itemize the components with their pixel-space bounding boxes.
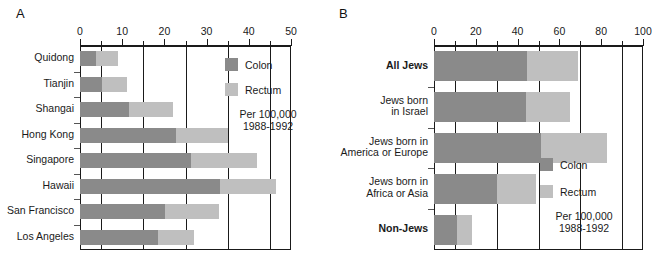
legend-panel-b: Colon Rectum Per 100,000 1988-1992 bbox=[540, 158, 635, 228]
x-tick-100 bbox=[643, 39, 644, 46]
legend-note-a: Per 100,000 1988-1992 bbox=[221, 108, 315, 132]
bar-row bbox=[80, 77, 127, 92]
bar-row bbox=[80, 102, 173, 117]
x-tick-0 bbox=[434, 39, 435, 46]
y-separator-tick bbox=[74, 97, 80, 98]
y-separator-tick bbox=[74, 148, 80, 149]
bar-segment-colon bbox=[434, 92, 526, 122]
legend-panel-a: Colon Rectum Per 100,000 1988-1992 bbox=[225, 58, 315, 124]
bar-segment-colon bbox=[80, 102, 129, 117]
category-label: Tianjin bbox=[2, 78, 74, 90]
bar-segment-colon bbox=[434, 51, 527, 81]
panel-b: B 020406080100 All JewsJews born in Isra… bbox=[325, 0, 651, 270]
x-tick-40 bbox=[249, 39, 250, 46]
bar-segment-colon bbox=[80, 230, 158, 245]
y-separator-tick bbox=[74, 174, 80, 175]
bar-segment-rectum bbox=[165, 204, 219, 219]
bar-row bbox=[434, 92, 570, 122]
x-tick-label-60: 60 bbox=[554, 25, 566, 37]
legend-item-colon-b: Colon bbox=[540, 158, 587, 171]
x-tick-80 bbox=[601, 39, 602, 46]
y-separator-tick bbox=[428, 209, 434, 210]
bar-row bbox=[80, 51, 118, 66]
x-tick-40 bbox=[518, 39, 519, 46]
x-axis-panel-a: 01020304050 bbox=[80, 26, 291, 46]
bar-row bbox=[80, 153, 257, 168]
x-tick-20 bbox=[164, 39, 165, 46]
x-tick-10 bbox=[122, 39, 123, 46]
bar-segment-rectum bbox=[191, 153, 258, 168]
legend-item-rectum-b: Rectum bbox=[540, 185, 596, 198]
category-label: Non-Jews bbox=[325, 223, 428, 235]
bar-segment-rectum bbox=[527, 51, 578, 81]
bar-row bbox=[434, 174, 536, 204]
bar-row bbox=[80, 179, 276, 194]
x-tick-label-10: 10 bbox=[116, 25, 128, 37]
bar-segment-rectum bbox=[220, 179, 276, 194]
bar-row bbox=[80, 230, 194, 245]
x-tick-label-20: 20 bbox=[159, 25, 171, 37]
bar-segment-colon bbox=[434, 133, 541, 163]
x-tick-label-30: 30 bbox=[201, 25, 213, 37]
bar-segment-colon bbox=[80, 204, 165, 219]
legend-label-rectum: Rectum bbox=[560, 186, 596, 198]
gridline-15 bbox=[143, 46, 144, 250]
legend-label-colon: Colon bbox=[560, 159, 587, 171]
legend-label-rectum: Rectum bbox=[245, 84, 281, 96]
panel-b-letter: B bbox=[339, 6, 348, 21]
bar-segment-rectum bbox=[102, 77, 127, 92]
bar-segment-colon bbox=[434, 215, 457, 245]
x-tick-label-40: 40 bbox=[512, 25, 524, 37]
legend-item-rectum-a: Rectum bbox=[225, 83, 281, 96]
category-label: Shangai bbox=[2, 103, 74, 115]
x-tick-label-0: 0 bbox=[77, 25, 83, 37]
bar-row bbox=[80, 128, 228, 143]
category-label: San Francisco bbox=[2, 205, 74, 217]
legend-label-colon: Colon bbox=[245, 59, 272, 71]
y-separator-tick bbox=[74, 123, 80, 124]
panel-a: A 01020304050 QuidongTianjinShangaiHong … bbox=[0, 0, 325, 270]
bar-row bbox=[80, 204, 219, 219]
y-separator-tick bbox=[74, 225, 80, 226]
bar-segment-rectum bbox=[129, 102, 173, 117]
x-tick-30 bbox=[207, 39, 208, 46]
x-tick-label-50: 50 bbox=[285, 25, 297, 37]
category-label: Singapore bbox=[2, 154, 74, 166]
category-label: Quidong bbox=[2, 52, 74, 64]
x-tick-label-40: 40 bbox=[243, 25, 255, 37]
bar-segment-colon bbox=[80, 128, 176, 143]
x-tick-20 bbox=[476, 39, 477, 46]
bar-segment-colon bbox=[80, 153, 191, 168]
bar-segment-rectum bbox=[497, 174, 537, 204]
x-tick-label-20: 20 bbox=[470, 25, 482, 37]
x-tick-0 bbox=[80, 39, 81, 46]
category-label: Jews born in Africa or Asia bbox=[325, 176, 428, 199]
y-separator-tick bbox=[74, 199, 80, 200]
x-tick-label-100: 100 bbox=[634, 25, 652, 37]
category-label: Hong Kong bbox=[2, 129, 74, 141]
bar-segment-colon bbox=[80, 51, 96, 66]
category-label: Jews born in Israel bbox=[325, 95, 428, 118]
legend-note-b: Per 100,000 1988-1992 bbox=[534, 210, 634, 234]
y-separator-tick bbox=[428, 87, 434, 88]
y-separator-tick bbox=[74, 72, 80, 73]
panel-a-letter: A bbox=[16, 6, 25, 21]
bar-row bbox=[434, 51, 578, 81]
bar-segment-rectum bbox=[158, 230, 193, 245]
legend-swatch-colon-icon bbox=[225, 58, 238, 71]
x-axis-panel-b: 020406080100 bbox=[434, 26, 643, 46]
y-separator-tick bbox=[428, 168, 434, 169]
legend-swatch-colon-icon bbox=[540, 158, 553, 171]
category-label: All Jews bbox=[325, 60, 428, 72]
x-tick-label-80: 80 bbox=[595, 25, 607, 37]
bar-segment-colon bbox=[80, 77, 102, 92]
bar-segment-colon bbox=[80, 179, 220, 194]
category-label: Hawaii bbox=[2, 180, 74, 192]
bar-row bbox=[434, 215, 472, 245]
legend-swatch-rectum-icon bbox=[225, 83, 238, 96]
x-tick-label-0: 0 bbox=[431, 25, 437, 37]
x-tick-60 bbox=[559, 39, 560, 46]
bar-segment-rectum bbox=[457, 215, 472, 245]
legend-swatch-rectum-icon bbox=[540, 185, 553, 198]
